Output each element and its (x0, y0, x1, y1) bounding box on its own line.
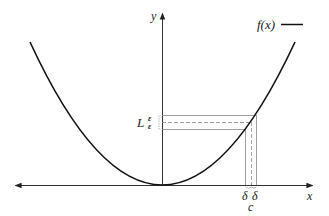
epsilon-lower-label: ε (148, 122, 152, 131)
legend-label: f(x) (257, 17, 275, 32)
point-c-label: c (248, 200, 254, 214)
y-axis-label: y (150, 9, 157, 23)
limit-label: L (136, 115, 144, 130)
x-axis-label: x (306, 189, 313, 203)
epsilon-delta-diagram: f(x) y x L ε ε δ δ c (0, 0, 329, 216)
